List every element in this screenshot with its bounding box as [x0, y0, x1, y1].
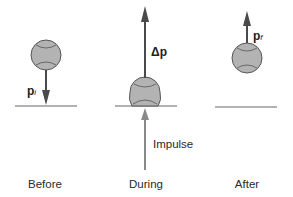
ball-before	[31, 40, 61, 70]
momentum-diagram: pi Δp Impulse pf Before During After	[0, 0, 293, 197]
caption-after: After	[235, 178, 259, 190]
vector-symbol: Δp	[151, 45, 167, 59]
vector-subscript: i	[34, 88, 36, 97]
label-p-initial: pi	[27, 84, 36, 98]
momentum-arrow-final	[243, 11, 251, 43]
label-p-final: pf	[253, 29, 263, 43]
momentum-arrow-initial	[42, 70, 50, 105]
label-delta-p: Δp	[151, 45, 167, 59]
vector-subscript: f	[260, 33, 262, 42]
panel-before	[15, 40, 77, 106]
panel-after	[215, 11, 277, 107]
ball-after	[232, 43, 262, 73]
label-impulse: Impulse	[153, 138, 193, 150]
ball-during-compressed	[129, 77, 160, 106]
impulse-arrow	[141, 108, 149, 170]
caption-during: During	[129, 178, 163, 190]
diagram-canvas	[0, 0, 293, 197]
delta-p-arrow	[141, 6, 149, 78]
caption-before: Before	[28, 178, 62, 190]
